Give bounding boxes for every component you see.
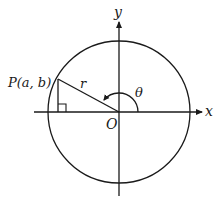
point-label: P(a, b) <box>7 75 51 90</box>
right-angle-marker <box>58 104 66 112</box>
x-axis-label: x <box>205 103 213 119</box>
y-axis-label: y <box>113 4 123 20</box>
angle-label: θ <box>135 85 143 100</box>
origin-label: O <box>106 116 118 132</box>
unit-circle-diagram: y x O P(a, b) r θ <box>0 0 221 204</box>
angle-arc <box>104 93 138 112</box>
radius-label: r <box>80 76 87 91</box>
